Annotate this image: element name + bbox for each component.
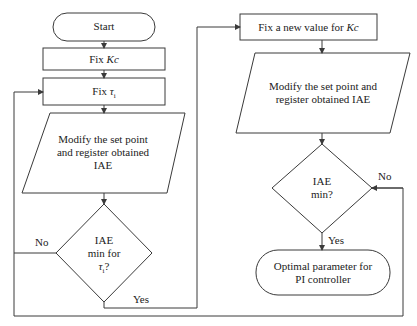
right-decision-line-1: IAE [292,175,352,188]
left-modify-line-1: Modify the set point [30,133,176,146]
tau-subscript: i [114,92,116,100]
kc-variable: Kc [347,21,359,33]
left-decision-line-2: min for [64,247,144,260]
right-modify-line-1: Modify the set point and [246,80,400,93]
right-modify-label: Modify the set point and register obtain… [246,80,400,106]
fix-new-kc-label: Fix a new value for Kc [240,21,377,34]
start-label: Start [53,20,155,33]
left-decision-label: IAE min for τi? [64,234,144,278]
end-line-2: PI controller [256,273,390,286]
right-decision-label: IAE min? [292,175,352,201]
end-line-1: Optimal parameter for [256,260,390,273]
right-no-label: No [378,170,391,183]
left-yes-label: Yes [133,293,149,306]
fix-kc-prefix: Fix [89,53,106,65]
right-yes-label: Yes [328,234,344,247]
right-modify-line-2: register obtained IAE [246,93,400,106]
right-decision-line-2: min? [292,188,352,201]
left-modify-line-3: IAE [30,159,176,172]
fix-tau-label: Fix τi [43,85,165,103]
fix-tau-prefix: Fix [92,85,109,97]
left-modify-label: Modify the set point and register obtain… [30,133,176,172]
end-label: Optimal parameter for PI controller [256,260,390,286]
left-decision-line-1: IAE [64,234,144,247]
kc-variable: Kc [107,53,119,65]
left-decision-line-3: τi? [64,260,144,278]
left-modify-line-2: and register obtained [30,146,176,159]
question-mark: ? [105,260,110,272]
fix-kc-label: Fix Kc [43,53,165,66]
left-no-label: No [35,236,48,249]
fix-new-kc-prefix: Fix a new value for [258,21,346,33]
